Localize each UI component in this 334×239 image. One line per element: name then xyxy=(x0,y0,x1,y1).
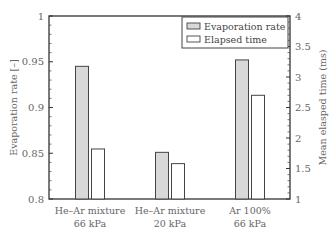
left-tick-label: 0.95 xyxy=(22,56,44,67)
left-tick-label: 0.9 xyxy=(28,102,44,113)
right-tick-label: 1.5 xyxy=(295,163,311,174)
category-label: He–Ar mixture xyxy=(135,205,206,216)
bar-elapsed-time xyxy=(172,164,185,199)
category-label: Ar 100% xyxy=(228,205,271,216)
bar-evaporation-rate xyxy=(236,60,249,199)
category-label: He–Ar mixture xyxy=(55,205,126,216)
bar-chart: 0.80.850.90.95111.522.533.54Evaporation … xyxy=(0,0,334,239)
legend-swatch xyxy=(187,36,200,42)
category-sublabel: 20 kPa xyxy=(154,218,187,229)
right-tick-label: 2 xyxy=(295,133,301,144)
bar-elapsed-time xyxy=(92,149,105,199)
legend-swatch xyxy=(187,23,200,29)
right-tick-label: 3.5 xyxy=(295,41,311,52)
right-tick-label: 1 xyxy=(295,194,301,205)
bar-elapsed-time xyxy=(252,95,265,199)
right-tick-label: 4 xyxy=(295,11,301,22)
left-axis-title: Evaporation rate [–] xyxy=(8,59,19,156)
right-axis-title: Mean elasped time (ms) xyxy=(317,50,328,166)
right-tick-label: 3 xyxy=(295,72,301,83)
bar-evaporation-rate xyxy=(76,66,89,199)
bar-evaporation-rate xyxy=(156,152,169,199)
left-tick-label: 1 xyxy=(38,11,44,22)
legend-label: Elapsed time xyxy=(204,34,267,45)
category-sublabel: 66 kPa xyxy=(74,218,107,229)
legend-label: Evaporation rate xyxy=(204,21,286,32)
right-tick-label: 2.5 xyxy=(295,102,311,113)
category-sublabel: 66 kPa xyxy=(234,218,267,229)
left-tick-label: 0.8 xyxy=(28,194,44,205)
left-tick-label: 0.85 xyxy=(22,148,44,159)
